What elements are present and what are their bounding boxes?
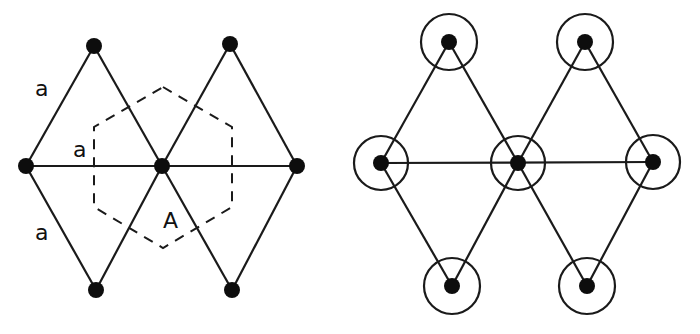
atom	[18, 158, 34, 174]
bond	[518, 163, 587, 286]
bond	[96, 166, 162, 290]
atom	[289, 158, 305, 174]
bond	[452, 163, 518, 286]
atom	[224, 282, 240, 298]
edge-label-middle: a	[73, 139, 86, 161]
bond	[381, 163, 452, 286]
bond	[585, 42, 653, 162]
atom	[441, 34, 457, 50]
lattice-figure: a a a A	[0, 0, 700, 334]
bond	[518, 42, 585, 163]
bond	[162, 44, 230, 166]
bond	[449, 42, 518, 163]
atom	[373, 155, 389, 171]
cell-label: A	[163, 210, 178, 232]
bond	[232, 166, 297, 290]
atom	[86, 38, 102, 54]
left-lattice	[18, 36, 305, 298]
atom	[579, 278, 595, 294]
bond	[587, 162, 653, 286]
bond	[94, 46, 162, 166]
atom	[444, 278, 460, 294]
edge-label-top: a	[35, 78, 48, 100]
atom	[577, 34, 593, 50]
bond	[381, 42, 449, 163]
right-lattice	[354, 14, 680, 314]
bond	[230, 44, 297, 166]
atom-center	[510, 155, 526, 171]
atom	[88, 282, 104, 298]
edge-label-bottom: a	[35, 222, 48, 244]
lattice-diagrams	[0, 0, 700, 334]
atom	[645, 154, 661, 170]
atom	[222, 36, 238, 52]
atom-center	[154, 158, 170, 174]
